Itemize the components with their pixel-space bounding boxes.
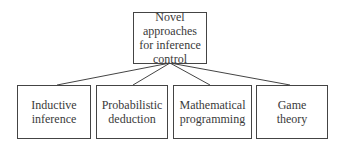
edge-root-inductive — [57, 63, 170, 85]
root-node: Novel approaches for inference control — [133, 12, 207, 64]
child-node-inductive-inference: Inductive inference — [17, 85, 91, 139]
child-node-probabilistic-deduction: Probabilistic deduction — [96, 85, 168, 139]
child-node-label: Mathematical programming — [180, 98, 246, 126]
edge-root-game — [170, 63, 290, 85]
child-node-label: Game theory — [277, 98, 308, 126]
child-node-label: Probabilistic deduction — [102, 98, 163, 126]
child-node-mathematical-programming: Mathematical programming — [173, 85, 252, 139]
root-node-label: Novel approaches for inference control — [139, 10, 201, 66]
child-node-game-theory: Game theory — [256, 85, 328, 139]
child-node-label: Inductive inference — [31, 98, 76, 126]
